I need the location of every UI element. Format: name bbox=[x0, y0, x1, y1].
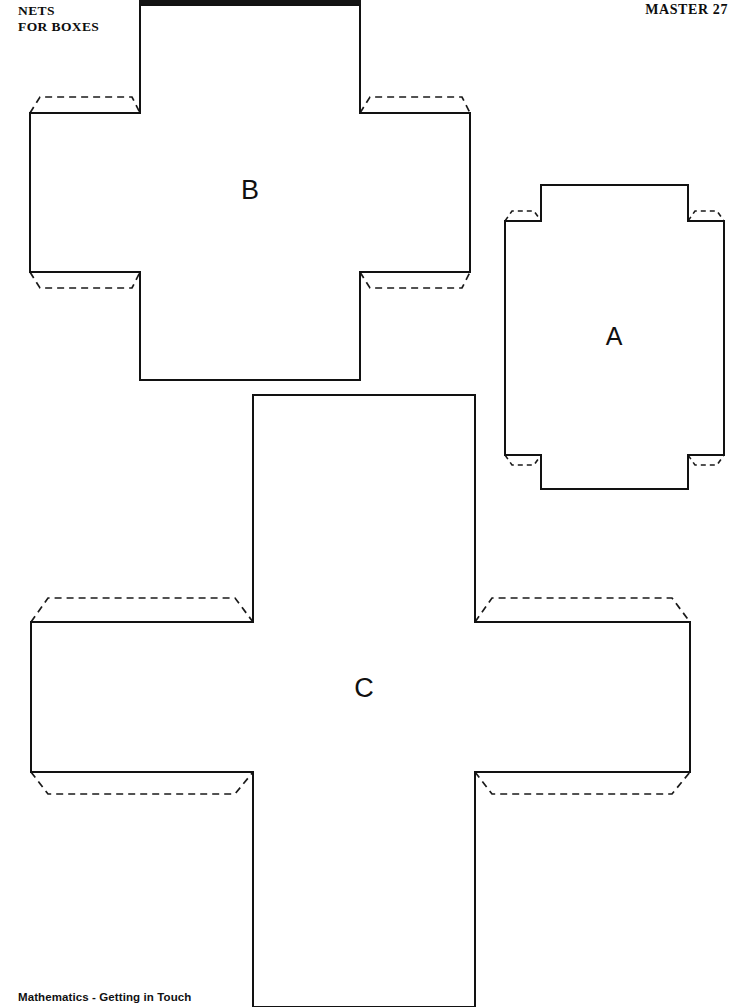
net-c-label: C bbox=[354, 673, 374, 703]
net-a-label: A bbox=[606, 322, 623, 350]
net-c-tab-top-right bbox=[475, 598, 690, 622]
net-b-group: B bbox=[30, 5, 470, 380]
net-b-tab-top-right bbox=[360, 97, 470, 113]
net-b-tab-bottom-right bbox=[360, 272, 470, 288]
net-b-label: B bbox=[241, 175, 259, 205]
net-a-tab-bottom-left bbox=[505, 455, 541, 465]
net-b-tab-top-left bbox=[30, 97, 140, 113]
worksheet-page: NETS FOR BOXES MASTER 27 B A bbox=[0, 0, 742, 1007]
net-a-group: A bbox=[505, 185, 724, 489]
net-a-tab-bottom-right bbox=[688, 455, 724, 465]
net-c-tab-bottom-right bbox=[475, 772, 690, 794]
net-a-tab-top-left bbox=[505, 211, 541, 221]
nets-drawing: B A C bbox=[0, 0, 742, 1007]
footer-source: Mathematics - Getting in Touch bbox=[18, 991, 191, 1003]
net-c-tab-top-left bbox=[31, 598, 253, 622]
net-b-tab-bottom-left bbox=[30, 272, 140, 288]
net-a-tab-top-right bbox=[688, 211, 724, 221]
net-c-tab-bottom-left bbox=[31, 772, 253, 794]
